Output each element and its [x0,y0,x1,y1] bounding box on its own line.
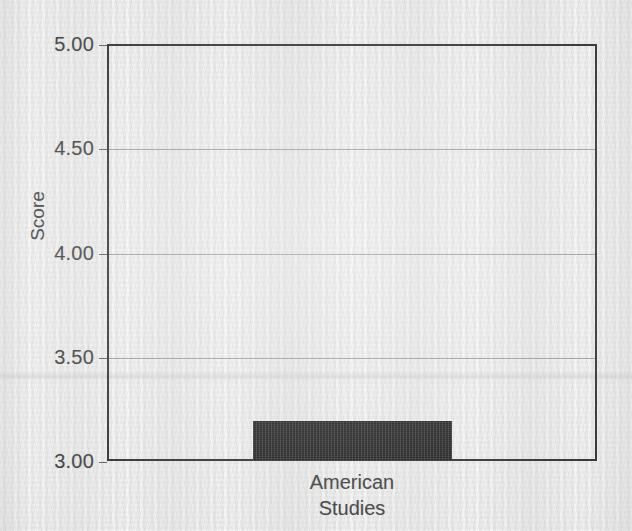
bar [253,421,452,461]
y-tick-mark [99,254,107,255]
plot-area [107,44,597,461]
x-axis-tick-label-line: American [310,471,394,493]
y-tick-mark [99,45,107,46]
bar-chart: Score 3.003.504.004.505.00 AmericanStudi… [0,0,632,531]
y-tick-mark [99,149,107,150]
x-axis-tick-label: AmericanStudies [232,469,472,521]
y-axis-tick-label: 3.50 [28,345,94,368]
scanned-chart-page: Score 3.003.504.004.505.00 AmericanStudi… [0,0,632,531]
gridline-3-5 [109,358,595,359]
y-axis-tick-label: 3.00 [28,450,94,473]
y-axis-title: Score [27,146,49,286]
y-axis-tick-label: 5.00 [28,33,94,56]
gridline-4 [109,254,595,255]
y-axis-tick-label: 4.50 [28,137,94,160]
x-axis-tick-label-line: Studies [232,495,472,521]
y-tick-mark [99,358,107,359]
y-tick-mark [99,462,107,463]
y-axis-tick-label: 4.00 [28,241,94,264]
gridline-4-5 [109,149,595,150]
